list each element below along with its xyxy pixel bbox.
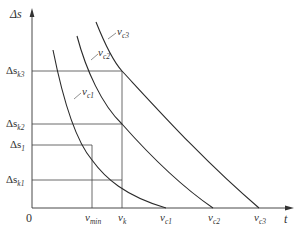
x-tick-v-c1: vc1 <box>160 212 172 226</box>
y-axis-arrow-icon <box>30 8 35 17</box>
x-tick-v-c2: vc2 <box>208 212 220 226</box>
origin-label: 0 <box>26 212 32 224</box>
y-tick-ds-1: Δs1 <box>10 139 25 153</box>
x-axis-label: t <box>284 213 287 225</box>
curve-vc1 <box>53 50 166 208</box>
x-axis-arrow-icon <box>285 206 294 211</box>
figure-caption <box>120 232 220 236</box>
curve-vc2 <box>77 36 213 208</box>
curve-label-vc2: vc2 <box>98 47 110 61</box>
x-tick-v-min: vmin <box>85 212 101 226</box>
y-axis-label: Δs <box>10 8 22 20</box>
axes <box>32 14 288 208</box>
y-tick-ds-k1: Δsk1 <box>6 174 24 188</box>
guide-lines <box>32 71 122 208</box>
x-tick-v-c3: vc3 <box>254 212 266 226</box>
y-tick-ds-k2: Δsk2 <box>6 118 24 132</box>
curve-label-vc1: vc1 <box>82 86 94 100</box>
curve-label-vc3: vc3 <box>117 26 129 40</box>
y-tick-ds-k3: Δsk3 <box>6 65 24 79</box>
x-tick-v-k: vk <box>118 212 126 226</box>
diagram-canvas <box>0 0 300 242</box>
label-leaders <box>74 33 116 99</box>
